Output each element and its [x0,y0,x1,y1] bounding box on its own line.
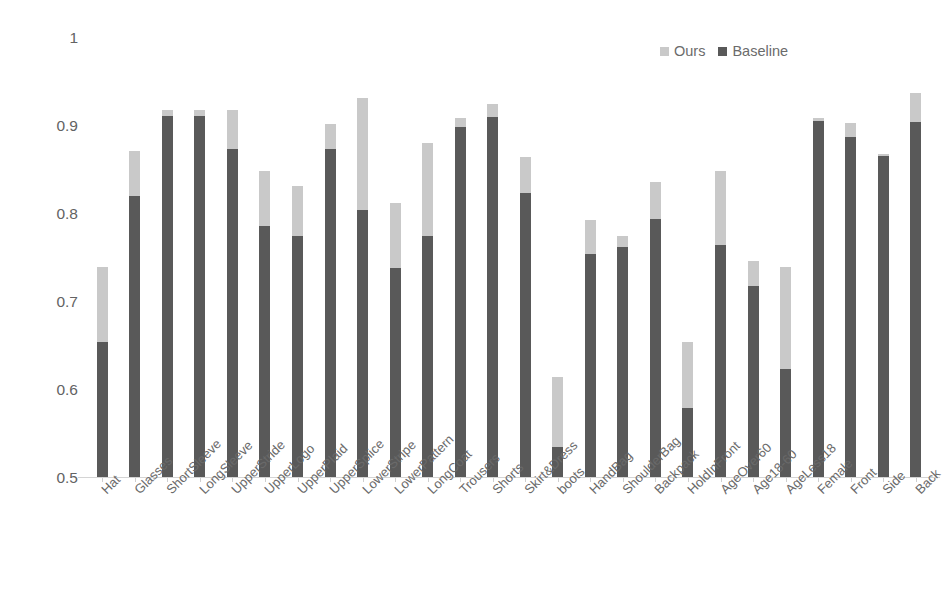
x-tick-label: Side [880,469,908,497]
x-axis-labels: HatGlassesShortSleeveLongSleeveUpperStri… [0,0,946,589]
bar-chart: Ours Baseline 0.50.60.70.80.91 HatGlasse… [0,0,946,589]
x-tick-label: Back [913,467,943,497]
x-tick-label: Hat [99,473,123,497]
x-tick-label: Front [848,466,879,497]
